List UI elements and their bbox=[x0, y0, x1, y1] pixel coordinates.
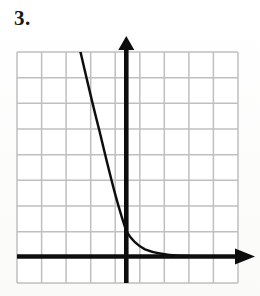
graph-figure bbox=[0, 0, 260, 296]
worksheet-page: 3. bbox=[0, 0, 260, 296]
y-axis-arrow-icon bbox=[118, 36, 134, 50]
coordinate-graph-svg bbox=[0, 0, 260, 296]
